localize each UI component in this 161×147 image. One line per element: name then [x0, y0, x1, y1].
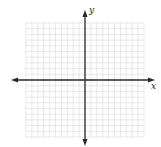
coordinate-grid-svg [0, 0, 161, 147]
y-axis-down-arrow-icon [83, 139, 88, 146]
x-axis-label: x [151, 82, 156, 91]
y-axis-up-arrow-icon [83, 10, 88, 17]
x-axis-left-arrow-icon [11, 78, 18, 83]
coordinate-plane: y x [0, 0, 161, 147]
y-axis-label: y [89, 6, 94, 15]
